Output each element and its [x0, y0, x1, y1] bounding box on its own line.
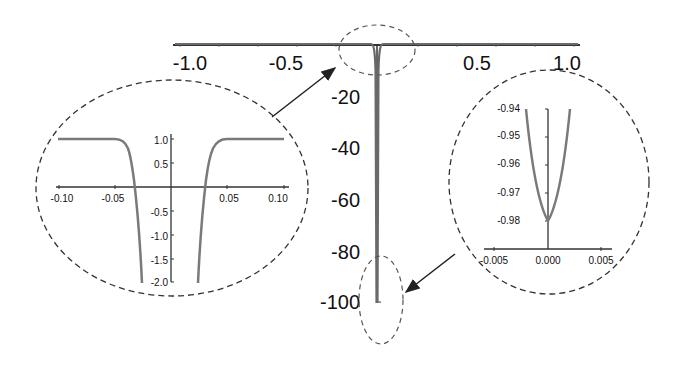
- main-y-tick-label: -60: [331, 189, 360, 211]
- left-inset-curve-left: [58, 139, 142, 283]
- main-x-tick-label: 0.5: [463, 52, 491, 74]
- left-inset-y-tick-label: -1.0: [151, 231, 169, 242]
- left-inset-x-tick-label: 0.05: [219, 193, 239, 204]
- right-inset-x-tick-label: -0.005: [480, 255, 509, 266]
- left-inset-x-tick-label: -0.10: [51, 193, 74, 204]
- main-y-tick-label: -80: [331, 241, 360, 263]
- right-inset-y-tick-label: -0.96: [497, 158, 520, 169]
- left-inset-y-tick-label: -2.0: [151, 277, 169, 288]
- right-inset-y-tick-label: -0.94: [497, 103, 520, 114]
- main-x-tick-label: -0.5: [269, 52, 303, 74]
- left-inset-x-tick-label: -0.05: [102, 193, 125, 204]
- arrow-to-right-inset: [406, 254, 455, 292]
- main-x-tick-label: -1.0: [173, 52, 207, 74]
- main-curve: [175, 44, 578, 302]
- right-inset: -0.94 -0.95 -0.96 -0.97 -0.98 -0.005 0.0…: [449, 70, 649, 294]
- left-inset: -0.10 -0.05 0.05 0.10 1.0 0.5 -0.5 -1.0 …: [36, 80, 308, 296]
- main-y-tick-label: -100: [320, 291, 360, 313]
- right-inset-y-tick-label: -0.97: [497, 187, 520, 198]
- left-inset-y-tick-label: -0.5: [151, 207, 169, 218]
- main-plot: -1.0 -0.5 0.5 1.0 -20 -40 -60 -80 -100: [173, 43, 581, 313]
- left-inset-y-tick-label: -1.5: [151, 255, 169, 266]
- main-x-tick-label: 1.0: [553, 52, 581, 74]
- main-y-tick-label: -20: [331, 86, 360, 108]
- main-y-tick-label: -40: [331, 137, 360, 159]
- right-inset-y-tick-label: -0.98: [497, 215, 520, 226]
- minimum-highlight-ellipse: [359, 256, 403, 344]
- left-inset-x-tick-label: 0.10: [268, 193, 288, 204]
- arrow-to-left-inset: [272, 68, 335, 117]
- right-inset-x-tick-label: 0.000: [535, 255, 560, 266]
- figure: -1.0 -0.5 0.5 1.0 -20 -40 -60 -80 -100: [0, 0, 677, 367]
- left-inset-y-tick-label: 0.5: [154, 159, 168, 170]
- right-inset-y-tick-label: -0.95: [497, 130, 520, 141]
- right-inset-x-tick-label: 0.005: [588, 255, 613, 266]
- left-inset-ellipse: [36, 80, 308, 296]
- left-inset-y-tick-label: 1.0: [154, 135, 168, 146]
